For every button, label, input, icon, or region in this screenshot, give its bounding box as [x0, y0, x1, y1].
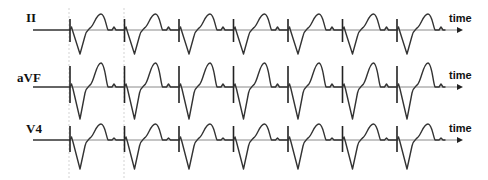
arrow-right-icon	[457, 84, 463, 90]
lead-strip-v4: V4 time	[26, 121, 472, 169]
time-axis-label-ii: time	[449, 12, 472, 24]
lead-label-avf: aVF	[17, 70, 41, 85]
ecg-waveform	[70, 124, 445, 169]
time-axis-label-v4: time	[449, 122, 472, 134]
ecg-waveform	[70, 14, 445, 54]
lead-label-v4: V4	[26, 121, 42, 136]
lead-label-ii: II	[26, 10, 36, 25]
lead-strip-ii: II time	[26, 10, 472, 54]
lead-strip-avf: aVF time	[17, 63, 472, 119]
time-axis-label-avf: time	[449, 69, 472, 81]
arrow-right-icon	[457, 27, 463, 33]
vertical-guide-lines	[69, 8, 124, 178]
ecg-waveform	[70, 63, 445, 119]
arrow-right-icon	[457, 137, 463, 143]
ecg-figure: II time aVF time V4 time	[0, 0, 488, 180]
